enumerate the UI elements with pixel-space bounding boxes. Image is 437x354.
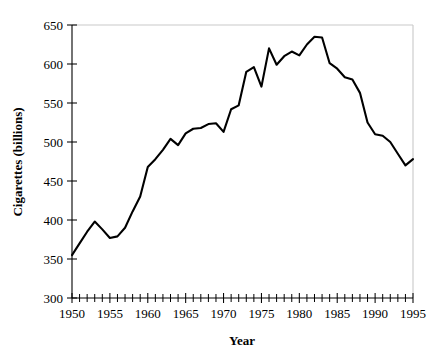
- x-tick-label-1950: 1950: [59, 306, 85, 321]
- y-tick-label-550: 550: [44, 96, 64, 111]
- y-tick-label-400: 400: [44, 213, 64, 228]
- x-tick-label-1965: 1965: [173, 306, 199, 321]
- x-tick-label-1970: 1970: [211, 306, 237, 321]
- y-tick-label-350: 350: [44, 252, 64, 267]
- x-tick-label-1980: 1980: [286, 306, 312, 321]
- x-tick-label-1985: 1985: [324, 306, 350, 321]
- x-tick-label-1990: 1990: [362, 306, 388, 321]
- y-tick-label-300: 300: [44, 291, 64, 306]
- y-tick-label-450: 450: [44, 174, 64, 189]
- x-axis-title: Year: [229, 333, 255, 348]
- x-tick-label-1975: 1975: [248, 306, 274, 321]
- y-tick-label-650: 650: [44, 18, 64, 33]
- chart-canvas: 300350400450500550600650 195019551960196…: [0, 0, 437, 354]
- x-tick-label-1960: 1960: [135, 306, 161, 321]
- x-tick-label-1955: 1955: [97, 306, 123, 321]
- y-tick-label-600: 600: [44, 57, 64, 72]
- y-axis-title: Cigarettes (billions): [10, 107, 25, 216]
- x-tick-label-1995: 1995: [400, 306, 426, 321]
- chart-background: [0, 0, 437, 354]
- y-tick-label-500: 500: [44, 135, 64, 150]
- cigarette-consumption-chart: 300350400450500550600650 195019551960196…: [0, 0, 437, 354]
